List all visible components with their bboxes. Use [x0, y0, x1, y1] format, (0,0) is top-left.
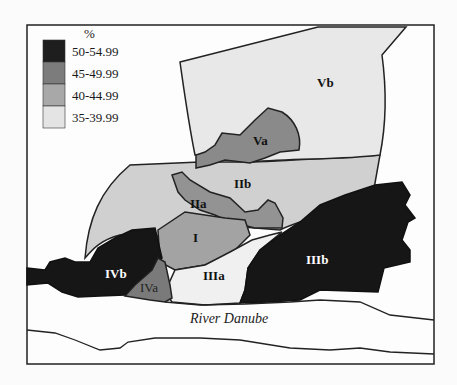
legend-swatch-3 [43, 84, 65, 106]
legend-label-1: 50-54.99 [72, 44, 119, 59]
label-Vb: Vb [317, 75, 334, 90]
zone-map: Vb Va IIb IIa I IIIa IIIb IVb IVa River … [0, 0, 457, 385]
label-I: I [193, 230, 198, 245]
label-IIa: IIa [190, 196, 207, 211]
label-IIb: IIb [234, 176, 251, 191]
label-IIIa: IIIa [203, 268, 225, 283]
label-IVb: IVb [105, 266, 127, 281]
legend-label-4: 35-39.99 [72, 110, 119, 125]
label-IIIb: IIIb [306, 252, 328, 267]
label-Va: Va [253, 133, 268, 148]
legend-swatch-4 [43, 106, 65, 128]
legend-label-2: 45-49.99 [72, 66, 119, 81]
label-IVa: IVa [140, 280, 158, 295]
legend-unit: % [84, 26, 95, 41]
legend-label-3: 40-44.99 [72, 88, 119, 103]
legend-swatch-1 [43, 40, 65, 62]
river-label: River Danube [189, 311, 268, 326]
legend-swatch-2 [43, 62, 65, 84]
